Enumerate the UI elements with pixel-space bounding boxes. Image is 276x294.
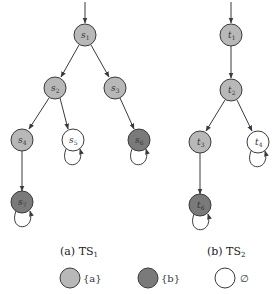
legend-item-a: {a} (60, 268, 102, 288)
transition-systems-diagram: s1 s2 s3 s4 s5 s6 s7 t1 (0, 0, 276, 294)
edge-t2-t4 (237, 100, 252, 131)
node-s4: s4 (11, 129, 33, 151)
node-s3: s3 (104, 77, 126, 99)
svg-text:∅: ∅ (240, 273, 249, 284)
node-t6: t6 (189, 194, 211, 216)
node-t3: t3 (189, 131, 211, 153)
edge-s2-s4 (29, 98, 49, 129)
legend-swatch-b (138, 268, 158, 288)
node-t1: t1 (220, 24, 242, 46)
ts2-nodes: t1 t2 t3 t4 t6 (189, 24, 269, 216)
legend-swatch-empty (215, 268, 235, 288)
node-s6: s6 (128, 129, 150, 151)
edge-s1-s3 (91, 45, 109, 77)
node-s5: s5 (62, 129, 84, 151)
legend: {a} {b} ∅ (60, 268, 249, 288)
node-t2: t2 (220, 79, 242, 101)
edge-s1-s2 (61, 45, 79, 77)
legend-item-b: {b} (138, 268, 180, 288)
edge-s2-s5 (60, 98, 68, 129)
svg-text:{a}: {a} (83, 273, 102, 284)
svg-text:{b}: {b} (161, 273, 180, 284)
edge-t2-t3 (206, 100, 225, 131)
legend-swatch-a (60, 268, 80, 288)
node-s2: s2 (44, 77, 66, 99)
edge-s3-s6 (120, 98, 134, 129)
node-s7: s7 (11, 191, 33, 213)
legend-item-empty: ∅ (215, 268, 249, 288)
node-t4: t4 (247, 131, 269, 153)
node-s1: s1 (74, 24, 96, 46)
caption-ts2: (b) TS2 (207, 245, 245, 259)
caption-ts1: (a) TS1 (60, 245, 98, 259)
